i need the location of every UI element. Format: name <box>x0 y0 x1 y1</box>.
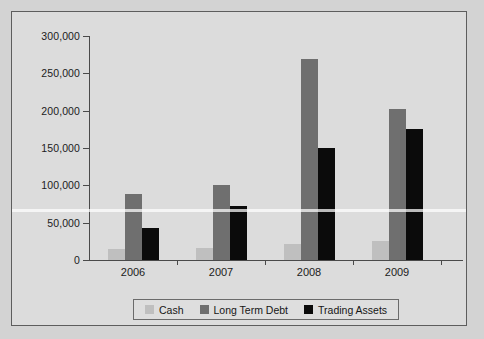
bar-group-2007 <box>177 36 265 260</box>
bar-longtermdebt-2007 <box>213 185 230 260</box>
scanned-page-background: 050,000100,000150,000200,000250,000300,0… <box>0 0 484 339</box>
chart-legend: CashLong Term DebtTrading Assets <box>133 299 399 320</box>
x-axis-label-2007: 2007 <box>209 266 233 278</box>
y-tick-label: 0 <box>74 254 80 266</box>
x-tick-mark <box>265 260 266 265</box>
bar-longtermdebt-2009 <box>389 109 406 260</box>
bar-group-2008 <box>265 36 353 260</box>
y-tick-label: 150,000 <box>41 142 80 154</box>
bar-tradingassets-2009 <box>406 129 423 260</box>
legend-label-tradingassets: Trading Assets <box>318 304 387 316</box>
x-axis-label-2008: 2008 <box>297 266 321 278</box>
y-tick-label: 250,000 <box>41 67 80 79</box>
x-tick-mark <box>177 260 178 265</box>
x-axis-label-2006: 2006 <box>121 266 145 278</box>
bar-cash-2008 <box>284 244 301 260</box>
chart-figure-frame: 050,000100,000150,000200,000250,000300,0… <box>11 11 467 326</box>
bar-group-2006 <box>89 36 177 260</box>
legend-entry-longtermdebt: Long Term Debt <box>200 304 289 316</box>
legend-entry-tradingassets: Trading Assets <box>304 304 387 316</box>
y-tick-label: 100,000 <box>41 179 80 191</box>
x-tick-mark <box>353 260 354 265</box>
legend-swatch-cash-icon <box>145 305 154 314</box>
bar-tradingassets-2006 <box>142 228 159 260</box>
bar-tradingassets-2008 <box>318 148 335 260</box>
bar-tradingassets-2007 <box>230 206 247 260</box>
bar-longtermdebt-2008 <box>301 59 318 260</box>
legend-swatch-tradingassets-icon <box>304 305 313 314</box>
x-axis-line <box>89 260 463 261</box>
legend-entry-cash: Cash <box>145 304 184 316</box>
y-tick-mark <box>83 260 89 261</box>
x-axis-label-2009: 2009 <box>385 266 409 278</box>
plot-area: 050,000100,000150,000200,000250,000300,0… <box>89 36 441 260</box>
bar-cash-2007 <box>196 248 213 260</box>
legend-label-longtermdebt: Long Term Debt <box>214 304 289 316</box>
legend-swatch-longtermdebt-icon <box>200 305 209 314</box>
y-tick-label: 300,000 <box>41 30 80 42</box>
legend-label-cash: Cash <box>159 304 184 316</box>
y-tick-label: 50,000 <box>47 217 80 229</box>
bar-cash-2009 <box>372 241 389 260</box>
bar-longtermdebt-2006 <box>125 194 142 260</box>
bar-group-2009 <box>353 36 441 260</box>
y-tick-label: 200,000 <box>41 105 80 117</box>
bar-cash-2006 <box>108 249 125 260</box>
x-tick-mark <box>441 260 442 265</box>
